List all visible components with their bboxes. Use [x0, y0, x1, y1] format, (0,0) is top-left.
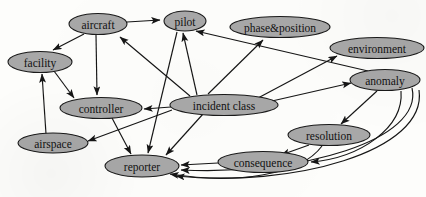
- node-consequence[interactable]: consequence: [218, 152, 308, 173]
- edge-pilot-to-reporter: [148, 32, 177, 153]
- edge-controller-to-reporter: [112, 118, 131, 154]
- node-facility[interactable]: facility: [8, 52, 72, 73]
- edge-anomaly-to-resolution: [341, 91, 377, 124]
- node-label-reporter: reporter: [124, 161, 161, 174]
- node-label-incident_class: incident class: [193, 100, 256, 112]
- diagram-canvas: aircraftpilotphase&positionenvironmentfa…: [0, 0, 426, 197]
- edge-facility-to-controller: [54, 71, 74, 98]
- node-airspace[interactable]: airspace: [18, 133, 88, 153]
- node-label-aircraft: aircraft: [81, 19, 115, 31]
- edge-airspace-to-facility: [42, 74, 46, 134]
- edge-incident_class-to-controller: [144, 107, 171, 109]
- node-anomaly[interactable]: anomaly: [350, 70, 420, 91]
- edge-incident_class-to-environment: [258, 56, 337, 98]
- node-resolution[interactable]: resolution: [288, 125, 370, 146]
- edge-incident_class-to-phase_position: [208, 40, 263, 94]
- node-label-airspace: airspace: [34, 138, 72, 151]
- node-label-pilot: pilot: [174, 16, 196, 29]
- node-controller[interactable]: controller: [60, 98, 142, 119]
- edge-incident_class-to-aircraft: [120, 37, 190, 96]
- node-pilot[interactable]: pilot: [164, 11, 206, 31]
- node-label-anomaly: anomaly: [365, 75, 405, 88]
- node-label-facility: facility: [24, 57, 57, 70]
- node-aircraft[interactable]: aircraft: [69, 14, 127, 35]
- edge-consequence-to-reporter: [181, 163, 218, 165]
- node-reporter[interactable]: reporter: [105, 155, 179, 177]
- edge-incident_class-to-pilot: [183, 33, 197, 95]
- edge-aircraft-to-pilot: [127, 20, 160, 22]
- edge-aircraft-to-facility: [53, 34, 84, 50]
- edge-incident_class-to-reporter: [166, 114, 203, 155]
- node-label-controller: controller: [79, 103, 124, 115]
- node-label-environment: environment: [348, 43, 407, 55]
- node-label-consequence: consequence: [234, 157, 293, 170]
- node-label-phase_position: phase&position: [244, 22, 316, 35]
- edge-aircraft-to-controller: [96, 35, 97, 95]
- node-label-resolution: resolution: [306, 130, 352, 142]
- edge-incident_class-to-anomaly: [272, 83, 351, 101]
- node-phase_position[interactable]: phase&position: [230, 17, 330, 38]
- node-incident_class[interactable]: incident class: [170, 95, 278, 116]
- graph-svg: aircraftpilotphase&positionenvironmentfa…: [0, 0, 426, 197]
- node-environment[interactable]: environment: [330, 38, 424, 59]
